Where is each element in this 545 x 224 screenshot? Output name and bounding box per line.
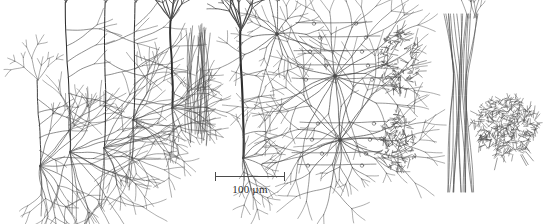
scale-bar-rule xyxy=(215,172,285,181)
dense-axonal-plexus xyxy=(469,94,542,170)
bushy-arbor-upper xyxy=(377,21,427,98)
scale-bar-cap-left xyxy=(215,172,216,181)
double-bouquet-descending-bundle xyxy=(444,0,485,192)
scale-bar-label: 100 µm xyxy=(215,183,285,195)
vertical-fiber-bundle xyxy=(185,24,220,146)
stellate-cell-upper xyxy=(203,0,347,111)
scale-bar-cap-right xyxy=(284,172,285,181)
scale-bar-line xyxy=(215,176,285,177)
scale-bar: 100 µm xyxy=(215,172,285,195)
neuron-morphology-figure: 100 µm xyxy=(0,0,545,224)
